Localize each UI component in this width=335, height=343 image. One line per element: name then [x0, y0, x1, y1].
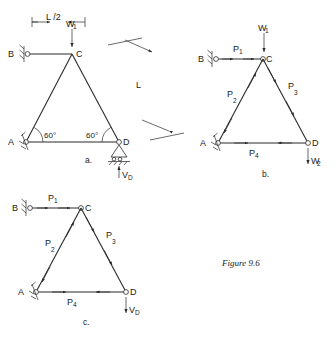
- joint-c-label-a: C: [76, 49, 83, 59]
- figure-sheet: L /2 W 1 B C 60° 60°: [0, 0, 335, 343]
- support-a-a: A: [8, 132, 28, 150]
- support-a-c: A: [18, 282, 38, 300]
- force-p3-arrow-1-b: [268, 68, 276, 83]
- force-p2-sub-c: 2: [51, 246, 55, 253]
- angle-arc-left-a: [34, 128, 43, 143]
- angle-left-label-a: 60°: [44, 131, 56, 140]
- support-d-roller-a: D: [108, 137, 130, 165]
- force-p2-arrow-2-c: [42, 267, 50, 282]
- diagram-b: W 1 B P 1 C P 2 P 3: [198, 23, 321, 179]
- force-p2-arrow-2-b: [224, 118, 232, 133]
- support-b-a: B: [8, 45, 30, 62]
- joint-d-c: [124, 290, 129, 295]
- subcaption-a: a.: [85, 155, 92, 165]
- force-p3-sub-b: 3: [294, 89, 298, 96]
- member-ac-a: [26, 54, 72, 142]
- angle-arc-right-a: [102, 128, 111, 143]
- joint-d-label-c: D: [130, 287, 137, 297]
- force-p1-sub-b: 1: [239, 48, 243, 55]
- force-p3-arrow-2-b: [286, 101, 294, 116]
- joint-d-b: [306, 141, 311, 146]
- force-p4-sub-c: 4: [73, 301, 77, 308]
- joint-b-label-a: B: [8, 49, 14, 59]
- joint-d-label-b: D: [312, 138, 319, 148]
- load-w1-b: W 1: [258, 23, 269, 52]
- force-p3-sub-c: 3: [112, 238, 116, 245]
- load-w1-a-sub: 1: [73, 23, 77, 30]
- load-w1-b-sub: 1: [265, 27, 269, 34]
- angle-right-label-a: 60°: [86, 131, 98, 140]
- force-p2-arrow-1-c: [66, 222, 74, 237]
- dimension-half-span: L /2: [32, 12, 85, 28]
- joint-c-label-c: C: [85, 203, 92, 213]
- force-p1-sub-c: 1: [54, 197, 58, 204]
- reaction-vd-a-sub: D: [128, 174, 133, 181]
- support-b-b: B: [198, 50, 218, 67]
- dimension-member-length: L: [108, 38, 184, 140]
- force-p2-sub-b: 2: [233, 97, 237, 104]
- diagram-a: L /2 W 1 B C 60° 60°: [8, 12, 184, 182]
- force-p4-sub-b: 4: [255, 152, 259, 159]
- joint-a-label-a: A: [8, 137, 14, 147]
- subcaption-c: c.: [83, 317, 90, 327]
- reaction-vd-a: V D: [119, 166, 133, 181]
- force-p3-arrow-2-c: [104, 250, 112, 265]
- reaction-vd-c: V D: [126, 297, 140, 316]
- member-cd-a: [72, 54, 119, 142]
- joint-a-label-c: A: [18, 287, 24, 297]
- force-p2-arrow-1-b: [248, 73, 256, 88]
- load-w1-a: W 1: [66, 19, 77, 47]
- support-b-c: B: [12, 199, 32, 216]
- diagram-c: B P 1 C P 2 P 3 P 4: [12, 193, 140, 327]
- figure-caption: Figure 9.6: [221, 258, 260, 268]
- member-ac-b: [218, 59, 263, 143]
- joint-a-label-b: A: [200, 138, 206, 148]
- member-ac-c: [36, 208, 81, 292]
- dim-half-span-label: L /2: [46, 12, 61, 22]
- load-w2-b-sub: 2: [317, 160, 321, 167]
- subcaption-b: b.: [262, 169, 269, 179]
- joint-d-label-a: D: [123, 137, 130, 147]
- reaction-vd-c-sub: D: [135, 309, 140, 316]
- dim-length-label: L: [136, 80, 141, 90]
- force-p3-arrow-1-c: [86, 217, 94, 232]
- joint-c-label-b: C: [266, 54, 273, 64]
- load-w2-b: W 2: [308, 148, 321, 167]
- joint-b-label-b: B: [198, 54, 204, 64]
- joint-b-label-c: B: [12, 203, 18, 213]
- support-a-b: A: [200, 133, 220, 151]
